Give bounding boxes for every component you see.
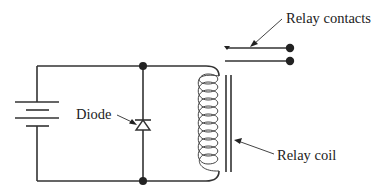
junction-dot-top xyxy=(139,62,147,70)
relay-coil-icon xyxy=(198,74,219,171)
diode-icon xyxy=(135,120,151,130)
relay-coil-label: Relay coil xyxy=(277,147,336,163)
relay-coil-pointer-arrow xyxy=(234,138,274,154)
junction-dot-bottom xyxy=(139,177,147,185)
diode-label: Diode xyxy=(76,106,111,122)
circuit-wires xyxy=(37,66,219,181)
relay-contacts-icon xyxy=(224,44,294,65)
relay-core-icon xyxy=(226,75,231,172)
diode-pointer-arrow xyxy=(117,115,137,125)
battery-icon xyxy=(15,102,59,126)
relay-contacts-label: Relay contacts xyxy=(286,10,371,26)
relay-contacts-pointer-arrow xyxy=(250,19,282,47)
relay-circuit-diagram: Diode Relay contacts Relay coil xyxy=(0,0,382,191)
